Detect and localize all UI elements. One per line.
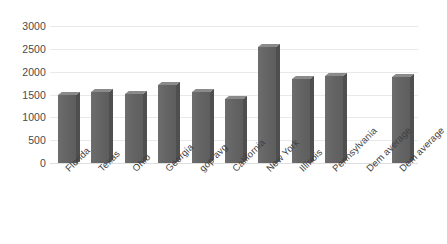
y-tick-label: 2000 (0, 66, 46, 77)
bar-front-face (158, 85, 176, 163)
bar-front-face (58, 95, 76, 164)
bar (192, 92, 210, 163)
bar (158, 85, 176, 163)
x-axis: FloridaTexasOhioGeorgiagop avgCalifornia… (50, 166, 428, 244)
bar (91, 92, 109, 163)
bar-side-face (276, 43, 280, 163)
bar (225, 99, 243, 163)
bar (58, 95, 76, 164)
bar-front-face (125, 94, 143, 163)
y-tick-label: 3000 (0, 21, 46, 32)
bar-front-face (192, 92, 210, 163)
y-tick-label: 1500 (0, 89, 46, 100)
bar-front-face (325, 76, 343, 163)
bar-front-face (91, 92, 109, 163)
gridline-2500 (50, 49, 418, 50)
gridline-3000 (50, 26, 418, 27)
bar (325, 76, 343, 163)
y-tick-label: 500 (0, 135, 46, 146)
bar (125, 94, 143, 163)
y-axis: 050010001500200025003000 (0, 0, 46, 244)
y-tick-label: 1000 (0, 112, 46, 123)
bar-front-face (225, 99, 243, 163)
gridline-2000 (50, 72, 418, 73)
y-tick-label: 2500 (0, 43, 46, 54)
y-tick-label: 0 (0, 158, 46, 169)
